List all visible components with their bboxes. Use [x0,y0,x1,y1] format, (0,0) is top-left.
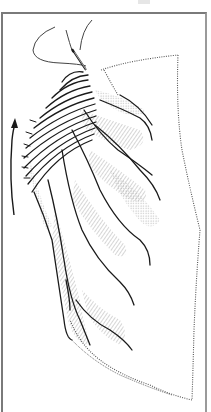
gathered-pleats [24,72,96,192]
direction-arrow [11,118,18,215]
thread [33,20,92,66]
needle [71,49,87,71]
